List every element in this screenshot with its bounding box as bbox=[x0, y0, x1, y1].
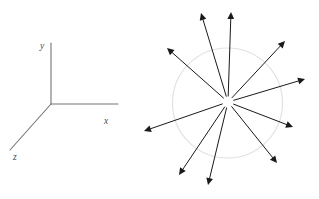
arrow-down-shaft bbox=[210, 108, 227, 178]
axis-label-z: z bbox=[12, 152, 17, 162]
arrow-down-left-shaft bbox=[183, 107, 225, 169]
arrow-down-head bbox=[206, 177, 213, 185]
arrow-up bbox=[227, 12, 234, 96]
figure-svg: y x z bbox=[0, 0, 319, 199]
arrow-up-head bbox=[227, 12, 234, 19]
coordinate-axes-panel: y x z bbox=[10, 41, 118, 162]
axis-label-x: x bbox=[103, 116, 109, 126]
arrow-group bbox=[144, 12, 305, 185]
arrow-right bbox=[234, 78, 305, 101]
arrow-right-low bbox=[234, 104, 293, 128]
arrow-right-low-shaft bbox=[234, 104, 287, 124]
arrow-left-shaft bbox=[151, 104, 223, 129]
axis-label-y: y bbox=[39, 41, 45, 51]
arrow-lower-right-shaft bbox=[232, 107, 273, 158]
guide-circle bbox=[173, 48, 283, 158]
arrow-left-head bbox=[144, 126, 152, 132]
arrow-lower-right-head bbox=[270, 155, 277, 163]
arrow-right-shaft bbox=[234, 81, 299, 100]
radial-vector-field-panel bbox=[144, 12, 305, 185]
arrow-up-left-steep-head bbox=[200, 13, 207, 21]
arrow-up-left-steep bbox=[200, 13, 226, 96]
arrow-down-left bbox=[179, 107, 225, 175]
axis-line-z bbox=[10, 104, 51, 150]
arrow-upper-left bbox=[167, 48, 224, 98]
arrow-up-left-steep-shaft bbox=[203, 20, 226, 97]
arrow-lower-right bbox=[232, 107, 277, 163]
arrow-right-head bbox=[297, 78, 305, 85]
arrow-down-left-head bbox=[179, 167, 186, 175]
arrow-up-shaft bbox=[228, 19, 231, 96]
figure-canvas: y x z bbox=[0, 0, 319, 199]
